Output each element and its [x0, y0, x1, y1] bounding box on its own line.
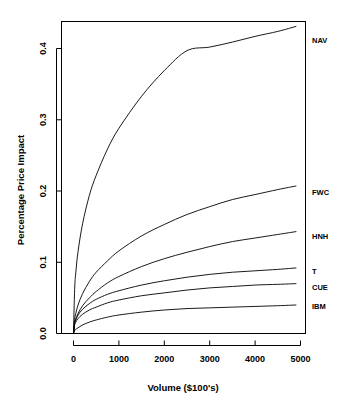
x-axis: 0 1000 2000 3000 4000 5000 Volume ($100'… — [71, 341, 311, 394]
x-tick-label-4000: 4000 — [245, 354, 265, 364]
curve-fwc — [74, 186, 296, 333]
curve-hnh — [74, 232, 296, 334]
x-tick-label-5000: 5000 — [290, 354, 310, 364]
y-tick-label-0-1: 0.1 — [38, 256, 48, 269]
series-label-ibm: IBM — [312, 302, 326, 311]
y-axis-title: Percentage Price Impact — [15, 134, 26, 245]
curve-group — [74, 26, 296, 333]
curve-nav — [74, 26, 296, 333]
x-tick-label-3000: 3000 — [200, 354, 220, 364]
y-axis-ticks — [57, 49, 62, 334]
series-label-fwc: FWC — [312, 188, 330, 197]
plot-frame — [62, 22, 306, 334]
x-tick-label-0: 0 — [71, 354, 76, 364]
y-tick-label-0-4: 0.4 — [38, 42, 48, 55]
series-label-t: T — [312, 267, 317, 276]
y-tick-label-0: 0.0 — [38, 327, 48, 340]
x-axis-ticks — [74, 341, 301, 346]
series-label-hnh: HNH — [312, 232, 328, 241]
x-axis-title: Volume ($100's) — [147, 382, 218, 393]
x-tick-label-1000: 1000 — [109, 354, 129, 364]
price-impact-chart-figure: 0 1000 2000 3000 4000 5000 Volume ($100'… — [0, 0, 348, 416]
curve-ibm — [74, 305, 296, 334]
x-tick-label-2000: 2000 — [154, 354, 174, 364]
y-tick-label-0-3: 0.3 — [38, 114, 48, 127]
chart-canvas: 0 1000 2000 3000 4000 5000 Volume ($100'… — [0, 0, 348, 416]
curve-t — [74, 268, 296, 334]
series-labels: NAV FWC HNH T CUE IBM — [312, 36, 330, 311]
y-axis: 0.0 0.1 0.2 0.3 0.4 Percentage Price Imp… — [15, 42, 62, 340]
series-label-cue: CUE — [312, 283, 328, 292]
y-tick-label-0-2: 0.2 — [38, 185, 48, 198]
series-label-nav: NAV — [312, 36, 327, 45]
